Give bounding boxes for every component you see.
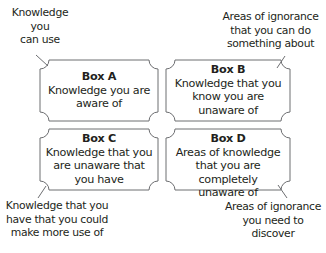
callout-bottom-left-line-1: Knowledge that you xyxy=(0,199,114,213)
box-b-title: Box B xyxy=(166,63,290,77)
box-c-title: Box C xyxy=(40,132,158,146)
callout-bottom-right-line-1: Areas of ignorance xyxy=(220,200,326,214)
callout-top-right-line-2: that you can do xyxy=(215,24,326,38)
callout-bottom-right: Areas of ignorance you need to discover xyxy=(220,200,326,241)
callout-top-left: Knowledge you can use xyxy=(0,6,80,47)
box-c: Box C Knowledge that you are unaware tha… xyxy=(40,132,158,186)
callout-top-right-line-1: Areas of ignorance xyxy=(215,10,326,24)
box-b-line-1: Knowledge that you xyxy=(166,77,290,91)
box-a-line-2: aware of xyxy=(40,97,158,111)
box-c-line-3: you have xyxy=(40,173,158,187)
callout-bottom-right-line-3: discover xyxy=(220,227,326,241)
callout-bottom-left-line-3: make more use of xyxy=(0,226,114,240)
box-d-title: Box D xyxy=(166,132,290,146)
box-d-line-2: that you are completely xyxy=(166,159,290,186)
box-b: Box B Knowledge that you know you are un… xyxy=(166,63,290,117)
box-b-line-3: unaware of xyxy=(166,104,290,118)
box-d: Box D Areas of knowledge that you are co… xyxy=(166,132,290,200)
box-a-title: Box A xyxy=(40,70,158,84)
callout-top-right: Areas of ignorance that you can do somet… xyxy=(215,10,326,51)
callout-bottom-left: Knowledge that you have that you could m… xyxy=(0,199,114,240)
callout-bottom-right-line-2: you need to xyxy=(220,214,326,228)
leader-line-top-left xyxy=(36,55,48,66)
callout-top-right-line-3: something about xyxy=(215,37,326,51)
box-b-line-2: know you are xyxy=(166,90,290,104)
box-c-line-2: are unaware that xyxy=(40,159,158,173)
callout-top-left-line-2: you xyxy=(0,20,80,34)
callout-top-left-line-1: Knowledge xyxy=(0,6,80,20)
box-d-line-1: Areas of knowledge xyxy=(166,146,290,160)
box-d-line-3: unaware of xyxy=(166,186,290,200)
leader-line-bottom-left xyxy=(38,186,46,198)
callout-bottom-left-line-2: have that you could xyxy=(0,213,114,227)
box-a-line-1: Knowledge you are xyxy=(40,84,158,98)
box-a: Box A Knowledge you are aware of xyxy=(40,70,158,111)
box-c-line-1: Knowledge that you xyxy=(40,146,158,160)
callout-top-left-line-3: can use xyxy=(0,33,80,47)
